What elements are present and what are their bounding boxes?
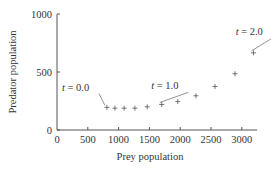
annotation-leader-line (160, 92, 189, 102)
x-tick-label: 500 (80, 134, 96, 145)
y-tick-label: 0 (47, 125, 52, 136)
data-point-marker (233, 71, 238, 76)
annotation-leader-line (252, 38, 271, 51)
x-tick-label: 2000 (170, 134, 191, 145)
data-point-marker (145, 104, 150, 109)
x-tick-label: 1000 (108, 134, 129, 145)
annotation-label: t = 0.0 (62, 82, 89, 93)
x-tick-label: 3000 (231, 134, 252, 145)
data-point-marker (132, 106, 137, 111)
annotation-leader-line (99, 94, 105, 106)
x-axis-label: Prey population (117, 151, 185, 162)
data-point-marker (193, 93, 198, 98)
annotation-label: t = 2.0 (236, 26, 263, 37)
data-point-marker (104, 105, 109, 110)
data-point-marker (213, 84, 218, 89)
axes: 05001000150020002500300005001000 (31, 9, 257, 146)
data-point-marker (175, 99, 180, 104)
y-tick-label: 1000 (31, 9, 52, 20)
x-tick-label: 2500 (201, 134, 222, 145)
y-tick-label: 500 (36, 67, 52, 78)
predator-prey-scatter-chart: 05001000150020002500300005001000 t = 0.0… (0, 0, 271, 175)
x-tick-label: 0 (54, 134, 59, 145)
data-point-marker (112, 106, 117, 111)
x-tick-label: 1500 (139, 134, 160, 145)
y-axis-label: Predator population (7, 30, 18, 114)
data-points (104, 50, 256, 110)
annotations: t = 0.0t = 1.0t = 2.0 (62, 26, 271, 106)
data-point-marker (122, 106, 127, 111)
annotation-label: t = 1.0 (151, 80, 178, 91)
